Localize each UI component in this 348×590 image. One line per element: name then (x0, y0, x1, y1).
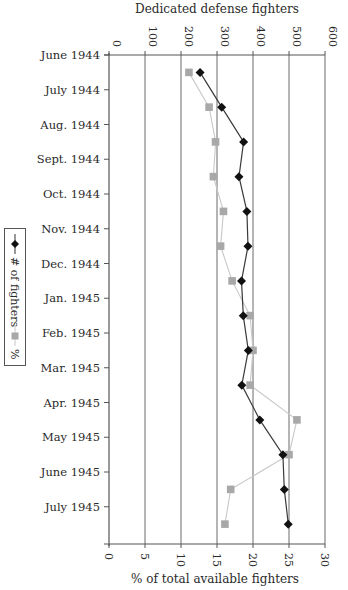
legend: # of fighters% (5, 229, 26, 366)
bottom-tick-label: 15 (210, 553, 223, 567)
category-label: Nov. 1944 (41, 222, 100, 236)
category-label: Aug. 1944 (39, 118, 100, 132)
top-axis-title: Dedicated defense fighters (135, 2, 299, 16)
category-label: Jan. 1945 (44, 291, 100, 305)
bottom-tick-label: 0 (102, 553, 115, 560)
bottom-tick-label: 30 (318, 553, 331, 567)
diamond-marker (243, 242, 252, 251)
category-axis: June 1944July 1944Aug. 1944Sept. 1944Oct… (37, 48, 109, 514)
top-tick-label: 600 (326, 26, 339, 47)
bottom-tick-label: 20 (246, 553, 259, 567)
square-marker (217, 242, 225, 250)
bottom-axis-ticks: 051015202530 (102, 544, 331, 567)
top-tick-label: 100 (146, 26, 159, 47)
legend-label-percent: % (8, 349, 21, 359)
square-marker (228, 277, 236, 285)
square-marker (185, 69, 193, 77)
top-tick-label: 0 (110, 40, 123, 47)
bottom-axis-title: % of total available fighters (131, 572, 299, 586)
category-label: Apr. 1945 (43, 396, 100, 410)
series-layer (185, 68, 301, 529)
bottom-tick-label: 10 (174, 553, 187, 567)
top-tick-label: 400 (254, 26, 267, 47)
square-marker (221, 520, 229, 528)
series-fighters (196, 68, 293, 529)
diamond-marker (242, 207, 251, 216)
top-tick-label: 500 (290, 26, 303, 47)
category-label: Feb. 1945 (42, 326, 100, 340)
square-marker (205, 103, 213, 111)
bottom-tick-label: 5 (138, 553, 151, 560)
diamond-marker (280, 485, 289, 494)
square-marker (293, 416, 301, 424)
top-tick-label: 300 (218, 26, 231, 47)
category-label: July 1945 (44, 500, 100, 514)
diamond-marker (237, 276, 246, 285)
top-axis-ticks: 0100200300400500600 (109, 26, 339, 55)
category-label: Oct. 1944 (43, 187, 100, 201)
top-tick-label: 200 (182, 26, 195, 47)
diamond-marker (234, 172, 243, 181)
category-label: Mar. 1945 (41, 361, 100, 375)
category-label: July 1944 (44, 83, 100, 97)
diamond-marker (239, 137, 248, 146)
category-label: Sept. 1944 (37, 152, 100, 166)
diamond-marker (237, 381, 246, 390)
square-marker (227, 486, 235, 494)
category-label: June 1944 (40, 48, 100, 62)
category-label: May 1945 (42, 430, 100, 444)
diamond-marker (255, 415, 264, 424)
square-marker (246, 381, 254, 389)
legend-square-icon (12, 333, 19, 340)
square-marker (212, 138, 220, 146)
category-label: Dec. 1944 (41, 257, 100, 271)
chart: Dedicated defense fighters % of total av… (0, 0, 348, 590)
axes (104, 53, 325, 546)
legend-label-fighters: # of fighters (8, 257, 21, 328)
bottom-tick-label: 25 (282, 553, 295, 567)
square-marker (210, 173, 218, 181)
diamond-marker (217, 103, 226, 112)
square-marker (220, 208, 228, 216)
diamond-marker (196, 68, 205, 77)
diamond-marker (284, 520, 293, 529)
category-label: June 1945 (40, 465, 100, 479)
